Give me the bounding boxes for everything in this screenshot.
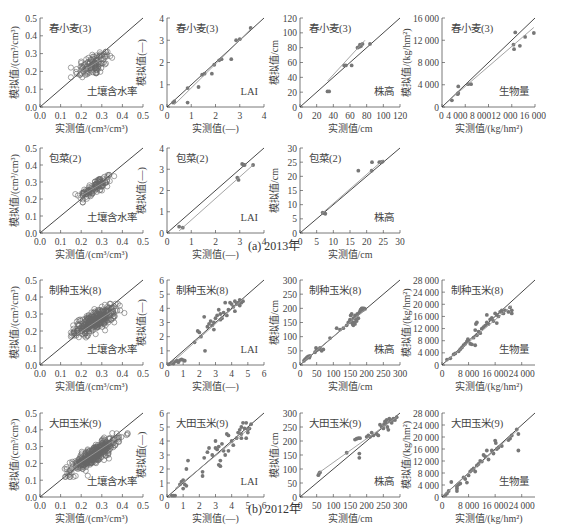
panel-title: 春小麦(3) [49, 23, 92, 35]
panel-variable-label: 生物量 [499, 475, 530, 487]
x-tick-label: 0.1 [55, 111, 67, 121]
y-tick-label: 24 000 [413, 288, 439, 298]
regression-line [328, 40, 366, 81]
x-tick-label: 0.2 [75, 111, 87, 121]
x-tick-label: 24 000 [509, 369, 535, 379]
x-tick-label: 5 [314, 237, 319, 247]
y-tick-label: 2 [159, 58, 164, 68]
panel-variable-label: LAI [241, 86, 259, 97]
x-tick-label: 16 000 [482, 501, 508, 511]
y-tick-label: 6 [159, 276, 164, 286]
y-tick-label: 0 [159, 103, 164, 113]
y-tick-label: 40 [288, 73, 298, 83]
x-tick-label: 250 [376, 369, 391, 379]
panel-title: 春小麦(3) [176, 23, 219, 35]
x-tick-label: 120 [393, 111, 408, 121]
y-tick-label: 0 [159, 229, 164, 239]
y-tick-label: 0.1 [25, 212, 37, 222]
y-tick-label: 4 000 [418, 80, 440, 90]
chart-panel-b6: 01234560123456实测值(—)模拟值(—)大田玉米(9)LAI [135, 409, 267, 526]
caption-2012: (b) 2012年 [248, 499, 301, 517]
chart-panel-a1: 0.00.10.20.30.40.50.00.10.20.30.40.5实测值/… [8, 14, 149, 136]
y-tick-label: 60 [288, 58, 298, 68]
x-tick-label: 0.1 [55, 369, 67, 379]
x-axis-label: 实测值/cm [328, 512, 373, 524]
x-tick-label: 3 [237, 237, 242, 247]
y-tick-label: 0.3 [25, 310, 37, 320]
x-tick-label: 50 [312, 501, 322, 511]
x-axis-label: 实测值/(cm³/cm³) [55, 122, 128, 135]
y-axis-label: 模拟值/(cm³/cm³) [8, 419, 21, 492]
chart-panel-a3: 020406080100120020406080100120实测值/cm模拟值/… [268, 14, 407, 135]
y-tick-label: 0 [434, 361, 439, 371]
x-tick-label: 0 [165, 111, 170, 121]
x-tick-label: 0.5 [137, 111, 149, 121]
x-axis-label: 实测值/(kg/hm²) [455, 380, 523, 393]
y-tick-label: 0.3 [25, 49, 37, 59]
x-tick-label: 50 [312, 369, 322, 379]
panel-variable-label: LAI [241, 212, 259, 223]
y-tick-label: 100 [283, 465, 298, 475]
chart-panel-b8: 04 0008 00012 00016 00020 00024 00028 00… [400, 409, 535, 526]
y-axis-label: 模拟值/(kg/hm²) [400, 29, 413, 97]
x-tick-label: 0.0 [34, 111, 46, 121]
y-tick-label: 24 000 [413, 421, 439, 431]
x-tick-label: 200 [360, 501, 375, 511]
panel-title: 包菜(2) [309, 152, 342, 165]
y-tick-label: 20 000 [413, 300, 439, 310]
y-tick-label: 3 [159, 318, 164, 328]
x-tick-label: 300 [393, 369, 408, 379]
panel-title: 大田玉米(9) [49, 417, 102, 430]
x-tick-label: 30 [395, 237, 405, 247]
panel-title: 制种玉米(8) [49, 284, 102, 297]
x-tick-label: 10 [329, 237, 339, 247]
x-tick-label: 15 [345, 237, 355, 247]
y-tick-label: 0.5 [25, 144, 37, 154]
y-tick-label: 20 [288, 172, 298, 182]
x-tick-label: 3 [213, 501, 218, 511]
x-tick-label: 1 [181, 369, 186, 379]
y-tick-label: 0 [159, 493, 164, 503]
y-tick-label: 0 [292, 103, 297, 113]
y-tick-label: 0.3 [25, 442, 37, 452]
y-tick-label: 3 [159, 451, 164, 461]
y-tick-label: 0.4 [25, 31, 37, 41]
data-points [73, 172, 117, 205]
panel-variable-label: 土壤含水率 [87, 475, 137, 487]
chart-panel-a2: 0123401234实测值(—)模拟值(—)春小麦(3)LAI [135, 14, 267, 136]
x-tick-label: 0.2 [75, 237, 87, 247]
y-tick-label: 5 [159, 290, 164, 300]
x-tick-label: 100 [326, 369, 341, 379]
y-tick-label: 12 000 [413, 457, 439, 467]
x-tick-label: 20 [312, 111, 322, 121]
x-tick-label: 0.4 [116, 369, 128, 379]
x-tick-label: 4 [262, 111, 267, 121]
x-tick-label: 0.4 [116, 501, 128, 511]
y-tick-label: 6 [159, 409, 164, 419]
caption-2013: (a) 2013年 [248, 236, 300, 254]
y-tick-label: 2 [159, 186, 164, 196]
y-axis-label: 模拟值(—) [135, 39, 148, 86]
x-tick-label: 0.3 [96, 237, 108, 247]
x-tick-label: 0.3 [96, 501, 108, 511]
y-tick-label: 28 000 [413, 276, 439, 286]
y-axis-label: 模拟值/(cm³/cm³) [8, 154, 21, 227]
chart-panel-b3: 050100150200250300050100150200250300实测值/… [268, 276, 407, 393]
y-axis-label: 模拟值(—) [135, 299, 148, 346]
x-tick-label: 0.1 [55, 237, 67, 247]
y-tick-label: 16 000 [413, 445, 439, 455]
y-axis-label: 模拟值/cm [268, 168, 280, 213]
x-tick-label: 100 [326, 501, 341, 511]
y-tick-label: 150 [283, 318, 298, 328]
y-tick-label: 10 [288, 200, 298, 210]
y-tick-label: 300 [283, 409, 298, 419]
x-tick-label: 0 [165, 501, 170, 511]
y-tick-label: 80 [288, 43, 298, 53]
chart-panel-b1: 0.00.10.20.30.40.50.00.10.20.30.40.5实测值/… [8, 276, 149, 394]
y-axis-label: 模拟值/cm [268, 40, 280, 85]
y-tick-label: 8 000 [418, 58, 440, 68]
x-axis-label: 实测值/(cm³/cm³) [55, 248, 128, 261]
y-tick-label: 30 [288, 144, 298, 154]
x-tick-label: 6 [262, 369, 267, 379]
figure: 0.00.10.20.30.40.50.00.10.20.30.40.5实测值/… [0, 0, 566, 527]
